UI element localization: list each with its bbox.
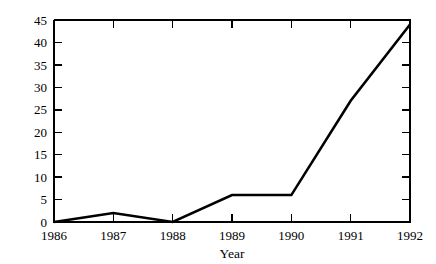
y-axis-tick-labels: 0 5 10 15 20 25 30 35 40 45 bbox=[34, 13, 47, 230]
y-tick-label: 30 bbox=[34, 80, 47, 95]
x-tick-label: 1990 bbox=[278, 228, 304, 243]
y-tick-label: 35 bbox=[34, 58, 47, 73]
y-tick-label: 45 bbox=[34, 13, 47, 28]
x-tick-label: 1991 bbox=[338, 228, 364, 243]
y-tick-label: 25 bbox=[34, 102, 47, 117]
x-axis-tick-labels: 1986 1987 1988 1989 1990 1991 1992 bbox=[41, 228, 423, 243]
y-tick-label: 40 bbox=[34, 35, 47, 50]
x-axis-title: Year bbox=[220, 246, 245, 261]
y-tick-label: 5 bbox=[41, 192, 48, 207]
y-tick-label: 20 bbox=[34, 125, 47, 140]
y-tick-label: 10 bbox=[34, 170, 47, 185]
x-tick-label: 1986 bbox=[41, 228, 68, 243]
line-chart: 0 5 10 15 20 25 30 35 40 45 1986 1987 19… bbox=[0, 0, 436, 264]
y-tick-label: 15 bbox=[34, 147, 47, 162]
x-tick-label: 1992 bbox=[397, 228, 423, 243]
x-tick-label: 1987 bbox=[100, 228, 127, 243]
x-tick-label: 1988 bbox=[160, 228, 186, 243]
x-tick-label: 1989 bbox=[219, 228, 245, 243]
plot-background bbox=[54, 20, 410, 222]
chart-container: 0 5 10 15 20 25 30 35 40 45 1986 1987 19… bbox=[0, 0, 436, 264]
